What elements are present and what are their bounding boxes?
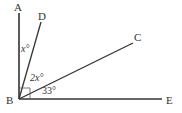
angle-label-CBE: 33°	[42, 85, 56, 96]
angle-label-ABD: x°	[20, 43, 29, 54]
label-A: A	[14, 1, 22, 13]
label-D: D	[38, 10, 46, 22]
geometry-diagram: A D C B E x° 2x° 33°	[0, 0, 182, 113]
label-C: C	[134, 31, 141, 43]
angle-label-DBC: 2x°	[30, 72, 43, 83]
label-B: B	[6, 94, 13, 106]
ray-BC	[19, 43, 133, 99]
ray-BD	[19, 22, 41, 99]
label-E: E	[166, 94, 173, 106]
